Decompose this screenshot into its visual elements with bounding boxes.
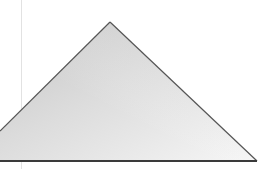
- triangle-graphic: [0, 0, 260, 169]
- triangle-shading: [0, 22, 257, 161]
- image-canvas: [0, 0, 260, 169]
